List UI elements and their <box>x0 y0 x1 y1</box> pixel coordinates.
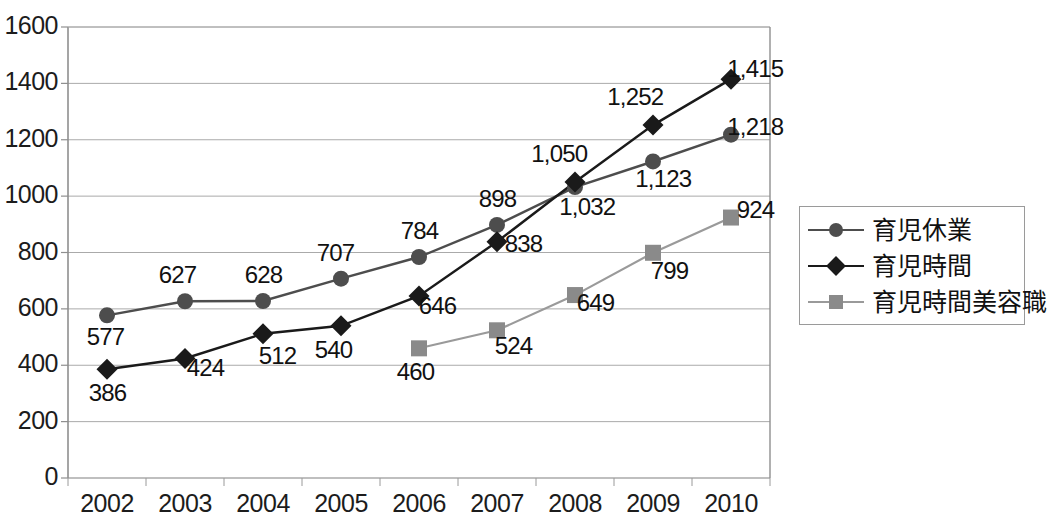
y-axis-tick-label: 1400 <box>0 67 58 96</box>
legend-marker-square-icon <box>808 293 864 311</box>
data-point-marker <box>489 217 505 233</box>
legend-item-0[interactable]: 育児休業 <box>808 213 972 247</box>
data-point-marker <box>643 115 664 136</box>
data-point-marker <box>333 271 349 287</box>
data-point-label: 628 <box>245 261 283 289</box>
data-point-label: 460 <box>397 358 435 386</box>
data-point-label: 424 <box>187 354 225 382</box>
x-axis-tick-label: 2006 <box>374 489 464 518</box>
data-point-label: 898 <box>479 185 517 213</box>
y-axis-tick-label: 1200 <box>0 124 58 153</box>
data-point-label: 1,123 <box>635 165 691 193</box>
data-point-label: 512 <box>259 342 297 370</box>
y-axis-tick-label: 1600 <box>0 11 58 40</box>
x-axis-tick-label: 2004 <box>218 489 308 518</box>
x-axis-tick-label: 2009 <box>608 489 698 518</box>
data-point-label: 838 <box>505 230 543 258</box>
legend-label-1: 育児時間 <box>872 254 972 279</box>
data-point-marker <box>177 293 193 309</box>
data-point-marker <box>411 249 427 265</box>
legend-marker-diamond-icon <box>808 257 864 275</box>
data-point-label: 649 <box>577 289 615 317</box>
data-point-label: 1,415 <box>727 55 783 83</box>
y-axis-tick-label: 0 <box>0 462 58 491</box>
data-point-label: 799 <box>651 257 689 285</box>
data-point-label: 386 <box>89 379 127 407</box>
x-axis-tick-label: 2008 <box>530 489 620 518</box>
data-point-label: 924 <box>737 196 775 224</box>
legend-label-0: 育児休業 <box>872 218 972 243</box>
legend-item-1[interactable]: 育児時間 <box>808 249 972 283</box>
x-axis-tick-label: 2003 <box>140 489 230 518</box>
data-point-marker <box>331 315 352 336</box>
data-point-label: 577 <box>87 323 125 351</box>
data-point-label: 646 <box>419 292 457 320</box>
y-axis-tick-label: 200 <box>0 406 58 435</box>
y-axis-tick-label: 800 <box>0 237 58 266</box>
data-point-label: 707 <box>317 239 355 267</box>
chart-legend: 育児休業 育児時間 育児時間美容職 <box>799 206 1025 325</box>
y-axis-tick-label: 600 <box>0 293 58 322</box>
data-point-label: 1,252 <box>607 83 663 111</box>
x-axis-tick-label: 2005 <box>296 489 386 518</box>
x-axis-tick-label: 2007 <box>452 489 542 518</box>
data-point-marker <box>255 293 271 309</box>
data-point-marker <box>99 307 115 323</box>
data-point-label: 627 <box>159 261 197 289</box>
data-point-label: 524 <box>495 332 533 360</box>
data-point-marker <box>411 340 427 356</box>
y-axis-tick-label: 400 <box>0 349 58 378</box>
legend-label-2: 育児時間美容職 <box>872 290 1047 315</box>
legend-marker-circle-icon <box>808 221 864 239</box>
y-axis-tick-label: 1000 <box>0 180 58 209</box>
x-axis-ticks <box>68 478 770 486</box>
x-axis-tick-label: 2002 <box>62 489 152 518</box>
legend-item-2[interactable]: 育児時間美容職 <box>808 285 1047 319</box>
data-point-label: 1,032 <box>559 193 615 221</box>
x-axis-tick-label: 2010 <box>686 489 776 518</box>
data-point-label: 1,050 <box>531 140 587 168</box>
data-point-label: 1,218 <box>727 113 783 141</box>
data-point-label: 784 <box>401 217 439 245</box>
data-point-label: 540 <box>315 336 353 364</box>
data-point-marker <box>97 359 118 380</box>
